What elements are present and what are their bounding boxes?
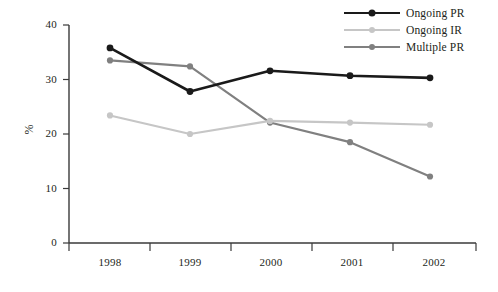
x-tick-label-2002: 2002 xyxy=(404,256,464,268)
x-tick-label-1998: 1998 xyxy=(80,256,140,268)
y-tick-label-40: 40 xyxy=(29,18,57,30)
data-point-ongoing-ir-2002 xyxy=(427,122,433,128)
legend-item-multiple-pr: Multiple PR xyxy=(344,39,465,54)
data-point-multiple-pr-1998 xyxy=(107,57,113,63)
legend-label-ongoing-pr: Ongoing PR xyxy=(400,7,465,19)
data-point-ongoing-ir-1998 xyxy=(107,112,113,118)
data-point-multiple-pr-1999 xyxy=(187,63,193,69)
data-point-multiple-pr-2002 xyxy=(427,173,433,179)
x-tick-label-1999: 1999 xyxy=(160,256,220,268)
data-point-ongoing-pr-1999 xyxy=(187,88,194,95)
legend-swatch-multiple-pr xyxy=(344,40,400,54)
data-point-ongoing-pr-2002 xyxy=(427,74,434,81)
legend-swatch-ongoing-ir xyxy=(344,23,400,37)
x-tick-label-2001: 2001 xyxy=(322,256,382,268)
legend-label-ongoing-ir: Ongoing IR xyxy=(400,24,462,36)
x-tick-label-2000: 2000 xyxy=(241,256,301,268)
data-point-ongoing-pr-2000 xyxy=(267,67,274,74)
line-chart: % 40 30 20 10 0 1998 1999 2000 2001 2002… xyxy=(0,0,498,292)
data-point-ongoing-ir-2001 xyxy=(347,119,353,125)
data-point-ongoing-pr-2001 xyxy=(347,72,354,79)
legend-swatch-ongoing-pr xyxy=(344,6,400,20)
y-tick-label-0: 0 xyxy=(29,236,57,248)
legend-item-ongoing-ir: Ongoing IR xyxy=(344,22,465,37)
data-point-multiple-pr-2001 xyxy=(347,139,353,145)
legend-label-multiple-pr: Multiple PR xyxy=(400,41,464,53)
data-point-ongoing-pr-1998 xyxy=(107,44,114,51)
legend-item-ongoing-pr: Ongoing PR xyxy=(344,5,465,20)
y-tick-label-10: 10 xyxy=(29,182,57,194)
y-tick-label-30: 30 xyxy=(29,73,57,85)
x-axis-ticks xyxy=(69,243,476,251)
y-tick-label-20: 20 xyxy=(29,127,57,139)
data-point-ongoing-ir-2000 xyxy=(267,118,273,124)
data-point-ongoing-ir-1999 xyxy=(187,131,193,137)
y-axis-ticks xyxy=(63,25,69,243)
chart-legend: Ongoing PR Ongoing IR Multiple PR xyxy=(344,5,465,54)
